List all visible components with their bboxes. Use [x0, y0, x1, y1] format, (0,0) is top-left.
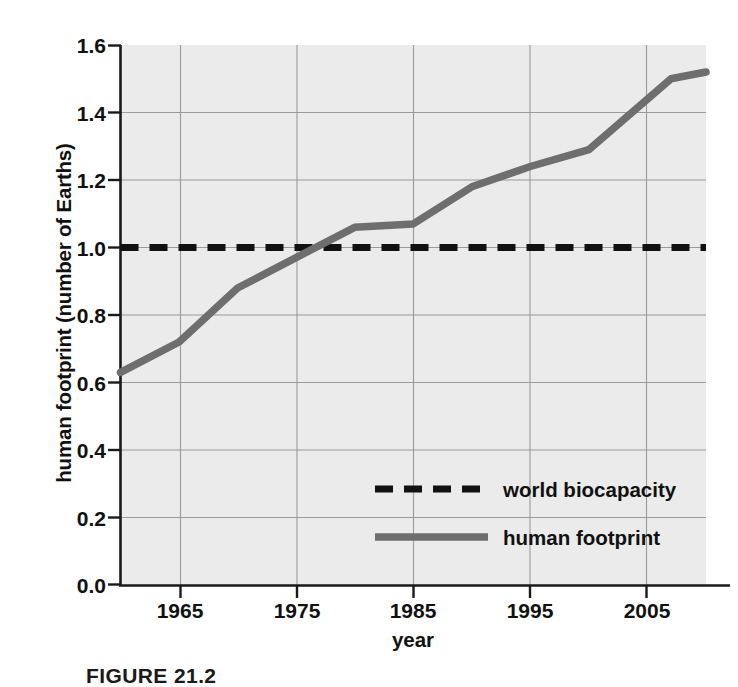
- figure-caption: FIGURE 21.2: [86, 664, 216, 687]
- y-tick-marks: [108, 46, 121, 585]
- legend-label-human-footprint: human footprint: [503, 526, 660, 549]
- x-tick-marks: [181, 585, 647, 598]
- legend-label-world-biocapacity: world biocapacity: [502, 478, 677, 501]
